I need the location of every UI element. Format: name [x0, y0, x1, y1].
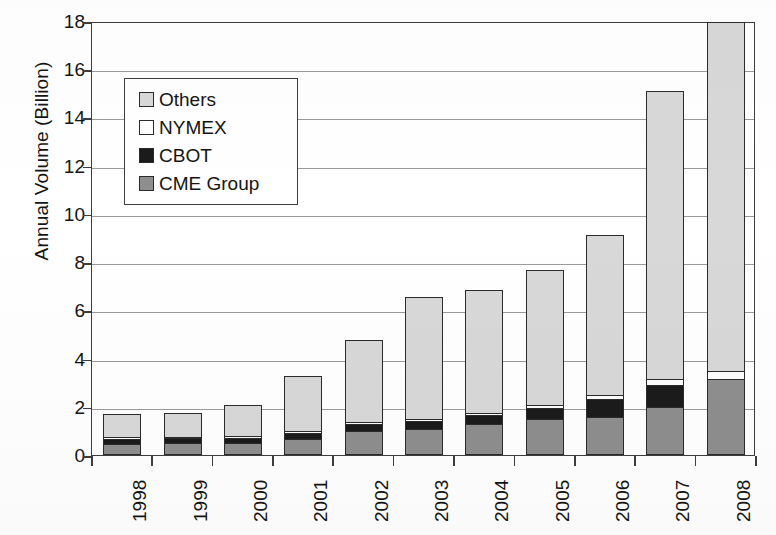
- y-axis-tick-labels: 181614121086420: [30, 0, 85, 535]
- y-tickmark: [83, 311, 92, 313]
- chart-legend: OthersNYMEXCBOTCME Group: [124, 78, 298, 205]
- legend-label: CME Group: [159, 174, 259, 193]
- bar-segment-others-2002: [345, 340, 383, 423]
- bar-segment-others-2008: [707, 22, 745, 372]
- bar-1999: [164, 414, 202, 455]
- x-tickmark: [212, 456, 214, 466]
- bar-segment-cme-group-2003: [405, 428, 443, 455]
- x-tickmark: [91, 456, 93, 466]
- y-tick-label: 12: [41, 157, 85, 176]
- legend-item-others[interactable]: Others: [125, 85, 297, 113]
- bar-segment-cbot-2005: [526, 408, 564, 420]
- y-tick-label: 2: [41, 398, 85, 417]
- y-tick-label: 0: [41, 446, 85, 465]
- bar-2001: [284, 378, 322, 455]
- bar-segment-cme-group-2002: [345, 431, 383, 455]
- x-tick-label-2001: 2001: [311, 480, 330, 522]
- bar-segment-cme-group-2008: [707, 379, 745, 455]
- x-tickmark: [393, 456, 395, 466]
- bar-segment-cme-group-2001: [284, 438, 322, 455]
- bar-segment-others-2003: [405, 297, 443, 420]
- legend-item-cbot[interactable]: CBOT: [125, 141, 297, 169]
- y-tickmark: [83, 70, 92, 72]
- x-tick-label-1998: 1998: [130, 480, 149, 522]
- bar-segment-cme-group-2000: [224, 443, 262, 455]
- legend-swatch-icon: [139, 92, 154, 107]
- x-tick-label-2006: 2006: [613, 480, 632, 522]
- y-tickmark: [83, 167, 92, 169]
- bar-segment-cme-group-2006: [586, 416, 624, 455]
- legend-swatch-icon: [139, 120, 154, 135]
- x-tick-label-2007: 2007: [673, 480, 692, 522]
- legend-item-nymex[interactable]: NYMEX: [125, 113, 297, 141]
- x-tick-label-2008: 2008: [734, 480, 753, 522]
- bar-segment-cbot-2006: [586, 398, 624, 417]
- bar-segment-cme-group-2007: [646, 407, 684, 455]
- x-tickmark: [272, 456, 274, 466]
- bar-2000: [224, 407, 262, 455]
- bar-segment-others-2005: [526, 270, 564, 406]
- x-tickmark: [151, 456, 153, 466]
- bar-segment-cme-group-2005: [526, 419, 564, 455]
- bar-segment-others-2006: [586, 235, 624, 396]
- y-tickmark: [83, 408, 92, 410]
- legend-label: Others: [159, 90, 216, 109]
- bar-2007: [646, 92, 684, 455]
- x-tickmark: [755, 456, 757, 466]
- bar-segment-cbot-2004: [465, 415, 503, 425]
- bar-segment-others-1998: [103, 414, 141, 439]
- y-tickmark: [83, 263, 92, 265]
- gridline: [92, 71, 754, 72]
- legend-item-cme-group[interactable]: CME Group: [125, 169, 297, 197]
- bar-segment-nymex-2008: [707, 370, 745, 380]
- bar-segment-others-1999: [164, 413, 202, 439]
- stacked-bar-chart: Annual Volume (Billion) 181614121086420 …: [0, 0, 776, 535]
- bar-segment-cme-group-1998: [103, 443, 141, 455]
- bar-2005: [526, 272, 564, 455]
- x-tickmark: [332, 456, 334, 466]
- y-tickmark: [83, 215, 92, 217]
- bar-segment-cme-group-1999: [164, 443, 202, 455]
- y-tick-label: 14: [41, 108, 85, 127]
- bar-segment-cme-group-2004: [465, 423, 503, 455]
- bar-segment-others-2004: [465, 290, 503, 414]
- bar-segment-others-2000: [224, 405, 262, 437]
- bar-segment-cbot-2007: [646, 385, 684, 408]
- bar-segment-others-2001: [284, 376, 322, 432]
- x-tickmark: [695, 456, 697, 466]
- x-tickmark: [514, 456, 516, 466]
- y-tick-label: 8: [41, 253, 85, 272]
- y-tick-label: 16: [41, 60, 85, 79]
- bar-2006: [586, 237, 624, 455]
- x-tickmark: [574, 456, 576, 466]
- bar-2008: [707, 23, 745, 455]
- bar-segment-others-2007: [646, 91, 684, 381]
- x-tick-label-1999: 1999: [191, 480, 210, 522]
- x-tick-label-2000: 2000: [251, 480, 270, 522]
- bar-2004: [465, 291, 503, 455]
- x-tickmark: [634, 456, 636, 466]
- y-tickmark: [83, 360, 92, 362]
- y-tickmark: [83, 22, 92, 24]
- x-tick-label-2003: 2003: [432, 480, 451, 522]
- bar-2003: [405, 298, 443, 455]
- y-tick-label: 10: [41, 205, 85, 224]
- y-tick-label: 18: [41, 12, 85, 31]
- y-tick-label: 6: [41, 301, 85, 320]
- x-tick-label-2002: 2002: [372, 480, 391, 522]
- x-tick-label-2005: 2005: [553, 480, 572, 522]
- x-tick-label-2004: 2004: [492, 480, 511, 522]
- x-tickmark: [453, 456, 455, 466]
- legend-label: CBOT: [159, 146, 212, 165]
- legend-label: NYMEX: [159, 118, 227, 137]
- legend-swatch-icon: [139, 176, 154, 191]
- y-tick-label: 4: [41, 350, 85, 369]
- y-tickmark: [83, 118, 92, 120]
- bar-2002: [345, 342, 383, 455]
- legend-swatch-icon: [139, 148, 154, 163]
- bar-1998: [103, 415, 141, 455]
